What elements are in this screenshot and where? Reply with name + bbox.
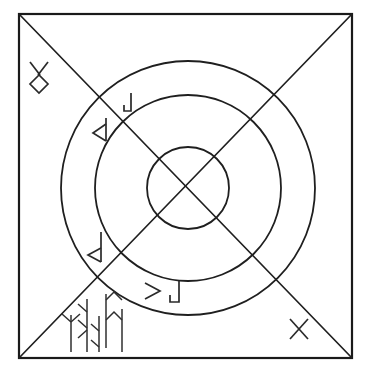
glyph-branched-stave	[78, 299, 87, 352]
glyph-chevron	[145, 283, 160, 299]
glyph-hook-bottom	[170, 281, 179, 302]
glyph-fehu	[106, 292, 122, 348]
glyph-left-triangle	[93, 118, 106, 141]
runic-circle-diagram	[0, 0, 371, 374]
glyph-x-corner	[290, 319, 308, 339]
glyph-algiz	[62, 314, 80, 352]
glyph-hook-top	[124, 93, 131, 111]
glyph-x-over-diamond	[30, 62, 48, 93]
diagram-canvas	[0, 0, 371, 374]
glyph-stave-triangle	[88, 232, 101, 262]
glyph-branched-stave-2	[91, 316, 99, 352]
